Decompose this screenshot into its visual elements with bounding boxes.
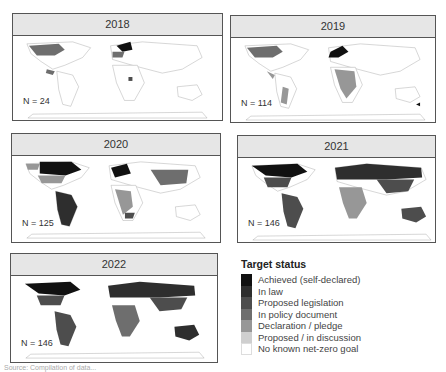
legend: Target status Achieved (self-declared) I… xyxy=(241,258,361,355)
legend-title: Target status xyxy=(241,258,361,270)
legend-item: Proposed legislation xyxy=(241,297,361,309)
source-note: Source: Compilation of data... xyxy=(4,364,96,371)
world-map xyxy=(11,276,217,362)
panel-year-title: 2020 xyxy=(12,134,220,156)
map-panel-2022: 2022 N = 146 xyxy=(10,253,218,363)
map-panel-2021: 2021 N = 146 xyxy=(237,135,436,243)
country-count: N = 146 xyxy=(21,338,53,348)
map-panel-2019: 2019 N = 114 xyxy=(230,15,436,123)
country-count: N = 114 xyxy=(241,98,272,108)
panel-year-title: 2019 xyxy=(231,16,435,38)
legend-item: No known net-zero goal xyxy=(241,343,361,355)
country-count: N = 146 xyxy=(248,218,280,228)
country-count: N = 24 xyxy=(23,96,50,106)
world-map xyxy=(12,156,220,242)
panel-year-title: 2018 xyxy=(13,14,222,36)
world-map xyxy=(238,158,435,242)
map-panel-2018: 2018 N = 24 xyxy=(12,13,223,121)
legend-item: In law xyxy=(241,286,361,298)
country-count: N = 125 xyxy=(22,218,54,228)
legend-item: Achieved (self-declared) xyxy=(241,274,361,286)
legend-item: In policy document xyxy=(241,309,361,321)
legend-item: Proposed / in discussion xyxy=(241,332,361,344)
map-panel-2020: 2020 N = 125 xyxy=(11,133,221,243)
world-map xyxy=(231,38,435,122)
world-map xyxy=(13,36,222,120)
legend-item: Declaration / pledge xyxy=(241,320,361,332)
panel-year-title: 2021 xyxy=(238,136,435,158)
panel-year-title: 2022 xyxy=(11,254,217,276)
